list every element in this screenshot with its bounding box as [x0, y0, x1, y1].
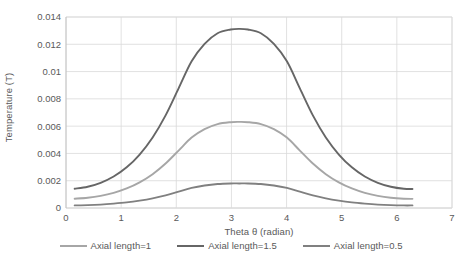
x-tick-label: 6: [394, 212, 399, 223]
legend-item-label: Axial length=1.5: [208, 240, 277, 251]
x-tick-label: 0: [63, 212, 68, 223]
legend-line-icon: [303, 245, 330, 247]
y-tick-label: 0.008: [37, 93, 61, 104]
legend-item-label: Axial length=1: [91, 240, 152, 251]
legend-line-icon: [60, 245, 87, 247]
x-tick-label: 2: [174, 212, 179, 223]
y-tick-label: 0.002: [37, 175, 61, 186]
legend-item-0[interactable]: Axial length=1: [60, 240, 152, 251]
x-tick-label: 3: [229, 212, 234, 223]
y-tick-label: 0.006: [37, 121, 61, 132]
y-tick-label: 0.01: [43, 66, 62, 77]
y-tick-label: 0.014: [37, 11, 61, 22]
x-gridlines: [66, 17, 452, 208]
x-axis-title: Theta θ (radian): [66, 226, 452, 237]
x-tick-label: 7: [449, 212, 454, 223]
temperature-vs-theta-chart: Temperature (T) 00.0020.0040.0060.0080.0…: [0, 0, 462, 266]
y-tick-label: 0.012: [37, 39, 61, 50]
x-tick-labels: 01234567: [63, 212, 454, 223]
series-line-1: [75, 29, 413, 189]
legend-line-icon: [177, 245, 204, 247]
series-line-2: [75, 183, 413, 205]
x-axis-title-label: Theta θ (radian): [224, 226, 293, 237]
series-line-0: [75, 122, 413, 199]
legend-item-label: Axial length=0.5: [334, 240, 403, 251]
chart-legend: Axial length=1Axial length=1.5Axial leng…: [0, 240, 462, 251]
y-tick-labels: 00.0020.0040.0060.0080.010.0120.014: [37, 11, 61, 213]
y-tick-label: 0: [56, 202, 61, 213]
x-tick-label: 5: [339, 212, 344, 223]
legend-item-2[interactable]: Axial length=0.5: [303, 240, 403, 251]
series-group: [75, 29, 413, 206]
y-gridlines: [66, 17, 452, 208]
x-tick-label: 4: [284, 212, 289, 223]
plot-frame: [66, 17, 452, 208]
legend-item-1[interactable]: Axial length=1.5: [177, 240, 277, 251]
y-tick-label: 0.004: [37, 148, 61, 159]
x-tick-label: 1: [118, 212, 123, 223]
